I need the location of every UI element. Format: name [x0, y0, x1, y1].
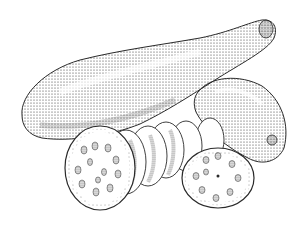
front-slice-left: [65, 126, 135, 210]
front-slice-right: [182, 148, 254, 208]
zucchini-illustration: [0, 0, 303, 233]
